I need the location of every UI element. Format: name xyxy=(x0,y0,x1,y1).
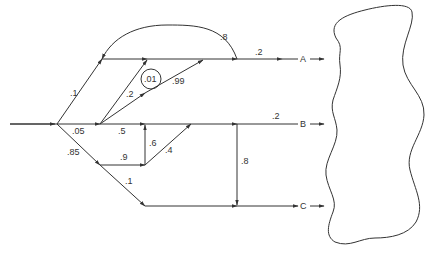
label-feedback-arc: .8 xyxy=(220,32,228,42)
edge-down-to-c: .1 xyxy=(100,165,145,206)
edge-a-out: .2 A xyxy=(237,47,324,64)
edge-mid-line: .5 xyxy=(100,124,237,136)
edge-b-out: .2 B xyxy=(237,111,324,129)
label-mid-segment: .5 xyxy=(118,126,126,136)
label-lower-segment: .9 xyxy=(120,152,128,162)
edge-lower-segment: .9 xyxy=(100,152,145,165)
label-mid-branch: .05 xyxy=(72,126,85,136)
edge-feedback-arc: .8 xyxy=(102,25,237,59)
edge-upper-branch: .1 xyxy=(57,59,102,124)
output-label-a: A xyxy=(300,54,306,64)
edge-c-out: C xyxy=(145,201,324,211)
flow-diagram: .1 .8 .2 A .05 .2 .99 .01 xyxy=(0,0,434,254)
output-label-b: B xyxy=(300,119,306,129)
loop-circle: .01 xyxy=(141,69,161,89)
label-b-out: .2 xyxy=(272,111,280,121)
label-diag-lower: .4 xyxy=(165,145,173,155)
label-b-to-c: .8 xyxy=(241,156,249,166)
label-vertical-up: .6 xyxy=(149,138,157,148)
irregular-region xyxy=(326,5,424,244)
edge-diag-up: .2 xyxy=(100,60,147,124)
label-a-out: .2 xyxy=(255,47,263,57)
label-diag-long: .99 xyxy=(172,76,185,86)
label-lower-branch: .85 xyxy=(67,147,80,157)
edge-vertical-up: .6 xyxy=(145,125,157,165)
label-down-to-c: .1 xyxy=(125,176,133,186)
label-diag-up: .2 xyxy=(126,89,134,99)
edge-diag-long: .99 xyxy=(100,60,203,124)
label-loop-circle: .01 xyxy=(144,74,157,84)
label-upper-branch: .1 xyxy=(70,88,78,98)
edge-b-to-c: .8 xyxy=(237,124,249,205)
output-label-c: C xyxy=(300,201,307,211)
